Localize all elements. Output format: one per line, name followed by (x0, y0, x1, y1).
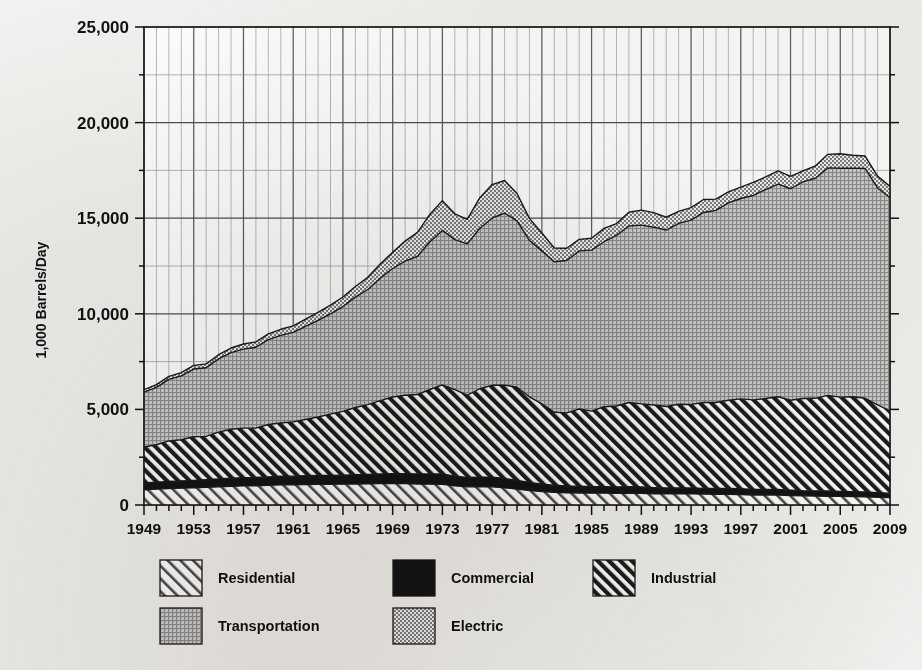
x-tick-label: 2009 (873, 520, 908, 537)
x-tick-label: 1997 (724, 520, 758, 537)
x-tick-label: 1969 (375, 520, 410, 537)
legend-label: Industrial (651, 570, 716, 586)
y-tick-label: 15,000 (77, 209, 129, 228)
legend-swatch-electric (393, 608, 435, 644)
y-tick-label: 10,000 (77, 305, 129, 324)
x-tick-label: 1981 (525, 520, 560, 537)
x-tick-label: 2001 (773, 520, 808, 537)
stacked-area-chart: 05,00010,00015,00020,00025,000 194919531… (0, 0, 922, 670)
x-tick-label: 1989 (624, 520, 659, 537)
x-tick-label: 1973 (425, 520, 460, 537)
y-tick-label: 0 (120, 496, 129, 515)
legend-label: Transportation (218, 618, 320, 634)
legend-swatch-transportation (160, 608, 202, 644)
y-axis-title: 1,000 Barrels/Day (33, 241, 49, 358)
x-tick-label: 1993 (674, 520, 709, 537)
legend-swatch-commercial (393, 560, 435, 596)
chart-figure: 05,00010,00015,00020,00025,000 194919531… (0, 0, 922, 670)
x-tick-label: 1949 (127, 520, 162, 537)
x-tick-label: 2005 (823, 520, 858, 537)
legend-label: Residential (218, 570, 295, 586)
y-tick-label: 20,000 (77, 114, 129, 133)
legend-label: Electric (451, 618, 503, 634)
y-tick-label: 5,000 (86, 400, 129, 419)
x-tick-label: 1985 (574, 520, 609, 537)
legend-swatch-industrial (593, 560, 635, 596)
x-tick-label: 1957 (226, 520, 260, 537)
legend-label: Commercial (451, 570, 534, 586)
y-tick-label: 25,000 (77, 18, 129, 37)
x-tick-label: 1953 (176, 520, 211, 537)
x-tick-label: 1961 (276, 520, 311, 537)
legend-swatch-residential (160, 560, 202, 596)
x-tick-label: 1965 (326, 520, 361, 537)
x-tick-label: 1977 (475, 520, 509, 537)
